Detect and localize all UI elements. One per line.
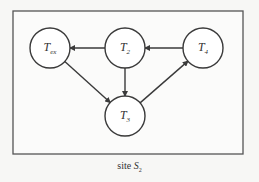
node-label-T2: T2 [120, 40, 130, 56]
figure-caption: site S2 [0, 160, 259, 173]
diagram-canvas [0, 0, 259, 182]
node-label-base: T [198, 40, 205, 54]
node-label-subscript: ex [50, 48, 56, 56]
node-label-subscript: 4 [205, 48, 209, 56]
node-label-T3: T3 [120, 108, 130, 124]
node-label-base: T [120, 40, 127, 54]
node-label-subscript: 3 [127, 116, 131, 124]
node-label-subscript: 2 [127, 48, 131, 56]
caption-text: site [117, 160, 131, 171]
node-label-base: T [120, 108, 127, 122]
node-label-Tex: Tex [44, 40, 57, 56]
node-label-T4: T4 [198, 40, 208, 56]
node-label-base: T [44, 40, 51, 54]
caption-subscript: 2 [139, 167, 142, 173]
